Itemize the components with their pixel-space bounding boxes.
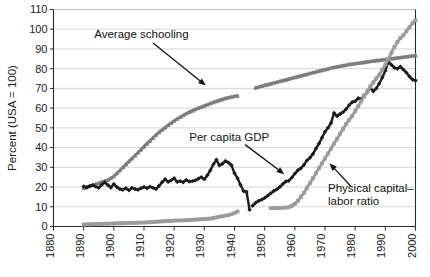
y-axis-title: Percent (USA = 100) xyxy=(6,65,18,171)
series-3-marker xyxy=(396,40,400,44)
series-3-marker xyxy=(350,114,354,118)
series-3-marker xyxy=(320,161,324,165)
series-3-marker xyxy=(362,94,366,98)
series-3-marker xyxy=(383,63,387,67)
y-tick-label-60: 60 xyxy=(35,102,47,114)
annotation-arrowhead-per-capita-gdp xyxy=(276,167,284,174)
series-3-marker xyxy=(389,51,393,55)
series-3-marker xyxy=(386,57,390,61)
y-tick-label-100: 100 xyxy=(29,23,47,35)
series-3-marker xyxy=(371,81,375,85)
x-tick-label-1910: 1910 xyxy=(134,234,146,258)
series-3-marker xyxy=(323,157,327,161)
annotation-label-average-schooling: Average schooling xyxy=(94,28,188,40)
annotation-label-physical-capital-labor-ratio: Physical capital–labor ratio xyxy=(328,182,414,207)
series-3-marker xyxy=(414,18,418,22)
series-3-marker xyxy=(405,29,409,33)
series-3-marker xyxy=(368,85,372,89)
y-tick-label-80: 80 xyxy=(35,63,47,75)
figure-container: 0102030405060708090100110188018901900191… xyxy=(0,0,430,277)
x-tick-label-1930: 1930 xyxy=(194,234,206,258)
series-3-marker xyxy=(408,25,412,29)
y-tick-label-40: 40 xyxy=(35,141,47,153)
series-3-marker xyxy=(365,89,369,93)
y-tick-label-0: 0 xyxy=(41,220,47,232)
x-tick-label-1960: 1960 xyxy=(285,234,297,258)
y-tick-label-20: 20 xyxy=(35,181,47,193)
series-3-marker xyxy=(374,77,378,81)
series-3-marker xyxy=(305,186,309,190)
series-3-marker xyxy=(329,147,333,151)
x-tick-label-1980: 1980 xyxy=(345,234,357,258)
series-3-marker xyxy=(296,199,300,203)
x-tick-label-1990: 1990 xyxy=(375,234,387,258)
series-3-marker xyxy=(338,132,342,136)
series-3-marker xyxy=(302,191,306,195)
y-tick-label-10: 10 xyxy=(35,201,47,213)
x-tick-label-1880: 1880 xyxy=(44,234,56,258)
x-tick-label-2000: 2000 xyxy=(406,234,418,258)
series-3-marker xyxy=(356,104,360,108)
series-3-marker xyxy=(392,45,396,49)
series-3-marker xyxy=(341,127,345,131)
series-1-group xyxy=(81,53,417,190)
series-3-marker xyxy=(353,109,357,113)
series-3-marker xyxy=(308,181,312,185)
series-3-marker xyxy=(236,210,240,214)
x-tick-label-1900: 1900 xyxy=(104,234,116,258)
annotation-physical-capital-labor-ratio: Physical capital–labor ratio xyxy=(328,163,414,207)
economic-convergence-chart: 0102030405060708090100110188018901900191… xyxy=(0,0,430,277)
y-tick-label-90: 90 xyxy=(35,43,47,55)
x-tick-label-1890: 1890 xyxy=(74,234,86,258)
series-3-marker xyxy=(347,118,351,122)
x-tick-label-1970: 1970 xyxy=(315,234,327,258)
annotation-average-schooling: Average schooling xyxy=(94,28,206,85)
series-3-marker xyxy=(299,195,303,199)
x-tick-label-1920: 1920 xyxy=(164,234,176,258)
y-tick-label-30: 30 xyxy=(35,161,47,173)
series-3-marker xyxy=(317,166,321,170)
x-tick-label-1940: 1940 xyxy=(225,234,237,258)
series-2-marker xyxy=(247,208,251,212)
series-3-marker xyxy=(335,137,339,141)
x-tick-label-1950: 1950 xyxy=(255,234,267,258)
series-3-marker xyxy=(314,171,318,175)
series-3-marker xyxy=(344,122,348,126)
series-3-marker xyxy=(377,73,381,77)
series-3-marker xyxy=(402,33,406,37)
y-tick-label-50: 50 xyxy=(35,122,47,134)
y-tick-label-70: 70 xyxy=(35,82,47,94)
annotation-label-per-capita-gdp: Per capita GDP xyxy=(189,131,269,143)
series-3-marker xyxy=(359,99,363,103)
series-3-marker xyxy=(326,152,330,156)
annotation-per-capita-gdp: Per capita GDP xyxy=(189,131,284,175)
series-3-marker xyxy=(332,142,336,146)
series-3-marker xyxy=(311,176,315,180)
y-tick-label-110: 110 xyxy=(30,3,48,15)
series-3-marker xyxy=(380,68,384,72)
